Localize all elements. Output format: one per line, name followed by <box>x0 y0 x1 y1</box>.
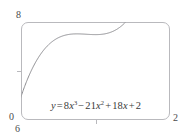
equation-term3-var: x <box>123 100 128 111</box>
y-axis-tick-mid <box>17 71 22 72</box>
y-axis-max-label: 8 <box>16 10 21 20</box>
equation-equals: = <box>56 100 64 111</box>
x-axis-corner-label: 6 <box>15 124 20 134</box>
x-axis-tick-mid <box>96 120 97 124</box>
y-axis-min-label: 0 <box>9 112 14 122</box>
equation-term2-coeff: 21 <box>85 100 96 111</box>
equation-op3: + <box>128 100 136 111</box>
equation-op2: + <box>104 100 112 111</box>
x-axis-max-label: 2 <box>173 113 178 123</box>
equation-annotation: y=8x3−21x2+18x+2 <box>51 100 141 111</box>
equation-term4-const: 2 <box>136 100 141 111</box>
equation-term3-coeff: 18 <box>112 100 123 111</box>
chart-screenshot: 8 0 6 2 y=8x3−21x2+18x+2 <box>0 0 192 138</box>
